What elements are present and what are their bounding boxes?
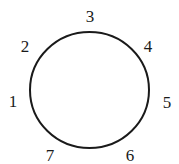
label-5: 5: [163, 94, 172, 111]
label-6: 6: [126, 147, 135, 164]
label-1: 1: [9, 93, 18, 110]
label-2: 2: [21, 38, 30, 55]
circle-diagram: 1 2 3 4 5 6 7: [0, 0, 179, 164]
label-7: 7: [46, 147, 55, 164]
label-3: 3: [86, 8, 95, 25]
label-4: 4: [144, 38, 153, 55]
